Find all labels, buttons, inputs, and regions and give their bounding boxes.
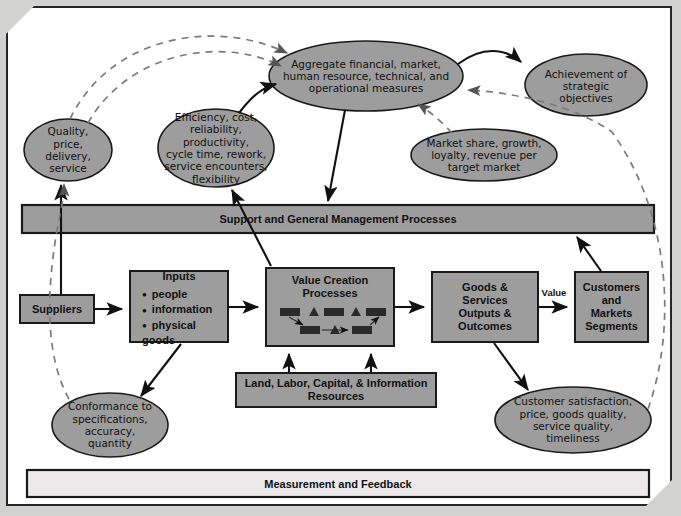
ellipse-label-quality-price: Quality, price, delivery, service	[24, 124, 112, 176]
inputs-bullet-list: people information physical goods	[130, 287, 228, 346]
measurement-bar-label: Measurement and Feedback	[27, 470, 649, 497]
ellipse-label-conformance: Conformance to specifications, accuracy,…	[52, 399, 168, 451]
ellipse-label-achievement-objectives: Achievement of strategic objectives	[525, 66, 647, 106]
ellipse-label-efficiency-cost: Efficiency, cost, reliability, productiv…	[158, 117, 274, 179]
ellipse-label-market-share: Market share, growth, loyalty, revenue p…	[411, 136, 557, 174]
inputs-title: Inputs	[130, 270, 228, 282]
box-label-resources: Land, Labor, Capital, & Information Reso…	[236, 373, 436, 407]
box-label-suppliers: Suppliers	[20, 295, 94, 323]
ellipse-label-aggregate-measures: Aggregate financial, market, human resou…	[269, 48, 463, 104]
box-label-inputs: Inputs people information physical goods	[130, 271, 228, 342]
box-label-customers-markets: Customers and Markets Segments	[575, 272, 648, 342]
ellipse-label-customer-satisfaction: Customer satisfaction, price, goods qual…	[495, 394, 651, 446]
diagram-page: Aggregate financial, market, human resou…	[0, 0, 681, 516]
support-bar-label: Support and General Management Processes	[22, 205, 654, 233]
box-label-goods-services: Goods & Services Outputs & Outcomes	[432, 272, 538, 342]
box-label-value-creation: Value Creation Processes	[266, 272, 394, 302]
value-edge-label: Value	[539, 285, 569, 299]
